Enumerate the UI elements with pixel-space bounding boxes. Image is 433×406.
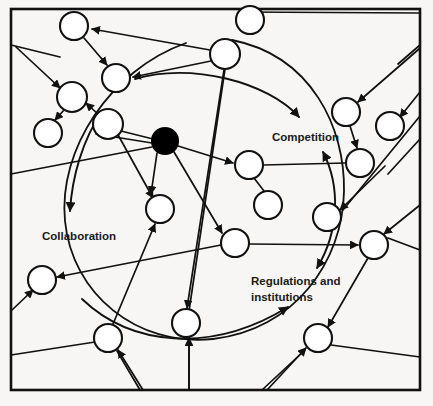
- node-n11[interactable]: [235, 151, 263, 179]
- node-n2[interactable]: [236, 6, 264, 34]
- node-n8[interactable]: [332, 98, 360, 126]
- node-n3[interactable]: [210, 39, 240, 69]
- node-n20[interactable]: [304, 324, 332, 352]
- node-n9[interactable]: [376, 112, 404, 140]
- node-hub[interactable]: [152, 128, 178, 154]
- node-n16[interactable]: [360, 231, 388, 259]
- node-n4[interactable]: [102, 64, 130, 92]
- node-n12[interactable]: [254, 191, 282, 219]
- edge-n14-n16: [249, 244, 358, 245]
- label-regulations-line1: Regulations and: [251, 275, 340, 287]
- network-diagram: Competition Collaboration Regulations an…: [0, 0, 433, 406]
- node-n15[interactable]: [313, 203, 341, 231]
- edge-frame-line-top-right: [240, 12, 420, 13]
- node-n7[interactable]: [93, 109, 123, 139]
- node-n19[interactable]: [94, 324, 122, 352]
- node-n13[interactable]: [146, 195, 174, 223]
- node-n14[interactable]: [221, 229, 249, 257]
- label-regulations-line2: institutions: [251, 291, 313, 303]
- label-competition: Competition: [272, 131, 339, 143]
- diagram-page: Competition Collaboration Regulations an…: [0, 0, 433, 406]
- node-n1[interactable]: [60, 12, 88, 40]
- label-collaboration: Collaboration: [42, 230, 116, 242]
- node-n6[interactable]: [34, 119, 62, 147]
- node-n18[interactable]: [172, 309, 200, 337]
- node-n5[interactable]: [57, 82, 87, 112]
- node-n10[interactable]: [346, 149, 374, 177]
- node-n17[interactable]: [28, 266, 56, 294]
